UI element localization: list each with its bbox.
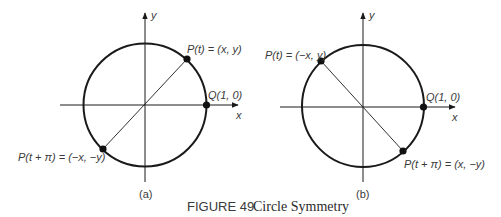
point-q	[420, 103, 427, 110]
panel-b: y x Q(1, 0) P(t) = (−x, y) P(t + π) = (x…	[265, 9, 485, 200]
circle-symmetry-figure: y x Q(1, 0) P(t) = (x, y) P(t + π) = (−x…	[0, 0, 501, 217]
y-axis-label: y	[150, 9, 158, 21]
figure-title: Circle Symmetry	[253, 199, 349, 214]
panel-caption: (a)	[139, 188, 152, 200]
q-point-label: Q(1, 0)	[208, 89, 243, 101]
p-point-label: P(t) = (x, y)	[187, 43, 242, 55]
x-axis-label: x	[451, 111, 458, 123]
panel-caption: (b)	[356, 188, 369, 200]
panel-a: y x Q(1, 0) P(t) = (x, y) P(t + π) = (−x…	[18, 9, 243, 200]
p-point-label: P(t) = (−x, y)	[265, 49, 326, 61]
y-axis-label: y	[368, 9, 376, 21]
x-axis-label: x	[235, 109, 242, 121]
p-opposite-label: P(t + π) = (x, −y)	[404, 158, 485, 170]
q-point-label: Q(1, 0)	[426, 91, 461, 103]
point-p	[183, 55, 190, 62]
diameter-line	[321, 61, 403, 151]
point-p-opposite	[399, 147, 406, 154]
p-opposite-label: P(t + π) = (−x, −y)	[18, 151, 106, 163]
figure-number: FIGURE 49	[187, 199, 254, 214]
point-q	[203, 101, 210, 108]
